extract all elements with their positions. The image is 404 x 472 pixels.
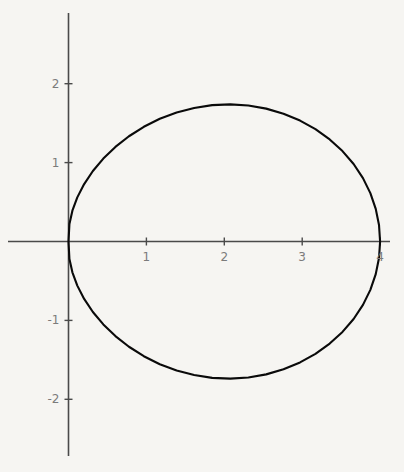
x-tick-label-2: 2: [220, 251, 228, 263]
y-tick-label--2: -2: [48, 393, 60, 405]
y-tick-label-1: 1: [52, 157, 60, 169]
y-tick-label-2: 2: [52, 78, 60, 90]
plot-canvas: [0, 0, 404, 472]
y-tick-label--1: -1: [48, 314, 60, 326]
x-tick-label-4: 4: [376, 251, 384, 263]
cardioid-plot-figure: 123421-1-2: [0, 0, 404, 472]
x-tick-label-3: 3: [298, 251, 306, 263]
x-tick-label-1: 1: [143, 251, 151, 263]
